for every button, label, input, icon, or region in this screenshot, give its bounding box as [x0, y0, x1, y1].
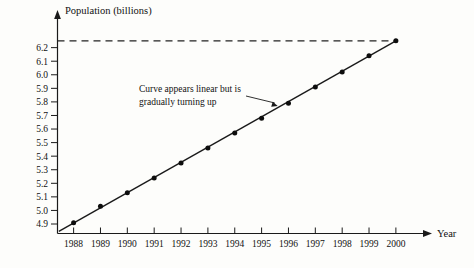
- x-tick-label: 1998: [333, 239, 352, 249]
- data-point: [125, 190, 130, 195]
- y-tick-label: 5.9: [36, 84, 48, 94]
- x-tick-label: 1996: [279, 239, 298, 249]
- y-tick-label: 4.9: [36, 219, 48, 229]
- x-axis-title: Year: [437, 228, 457, 239]
- y-axis-title: Population (billions): [65, 5, 152, 17]
- data-point: [286, 101, 291, 106]
- annotation-line-1: Curve appears linear but is: [139, 84, 241, 94]
- trend-line: [59, 41, 396, 232]
- x-tick-label: 1999: [360, 239, 379, 249]
- y-axis-arrowhead: [54, 10, 61, 19]
- data-point: [393, 38, 398, 43]
- data-point: [313, 84, 318, 89]
- x-tick-label: 1988: [64, 239, 83, 249]
- data-point: [179, 160, 184, 165]
- data-point: [259, 116, 264, 121]
- data-point: [71, 220, 76, 225]
- data-point: [232, 131, 237, 136]
- y-axis: [54, 10, 61, 234]
- y-tick-label: 5.1: [36, 192, 48, 202]
- data-point: [367, 53, 372, 58]
- x-tick-label: 1990: [118, 239, 137, 249]
- x-tick-label: 2000: [386, 239, 405, 249]
- x-tick-label: 1994: [225, 239, 244, 249]
- x-tick-label: 1991: [145, 239, 164, 249]
- y-tick-label: 5.2: [36, 179, 48, 189]
- data-point: [205, 146, 210, 151]
- chart-svg: Population (billions) Year 6.26.16.05.95…: [0, 0, 474, 268]
- annotation-line-2: gradually turning up: [139, 97, 217, 107]
- y-tick-label: 6.2: [36, 43, 48, 53]
- x-axis-arrowhead: [423, 230, 432, 237]
- x-tick-label: 1993: [198, 239, 217, 249]
- y-tick-label: 5.8: [36, 97, 48, 107]
- x-tick-label: 1989: [91, 239, 110, 249]
- x-tick-label: 1992: [172, 239, 191, 249]
- population-chart: Population (billions) Year 6.26.16.05.95…: [0, 0, 474, 268]
- annotation-leader-line: [246, 96, 275, 103]
- x-tick-group: 1988198919901991199219931994199519961997…: [64, 228, 406, 249]
- y-tick-group: 6.26.16.05.95.85.75.65.55.45.35.25.15.04…: [36, 43, 57, 229]
- y-tick-label: 6.1: [36, 57, 48, 67]
- y-tick-label: 5.0: [36, 206, 48, 216]
- x-tick-label: 1995: [252, 239, 271, 249]
- x-tick-label: 1997: [306, 239, 325, 249]
- data-point: [152, 175, 157, 180]
- y-tick-label: 5.4: [36, 152, 48, 162]
- y-tick-label: 5.7: [36, 111, 48, 121]
- y-tick-label: 5.6: [36, 124, 48, 134]
- x-axis: [58, 230, 433, 237]
- y-tick-label: 5.5: [36, 138, 48, 148]
- data-point: [340, 70, 345, 75]
- data-point: [98, 204, 103, 209]
- y-tick-label: 5.3: [36, 165, 48, 175]
- annotation: Curve appears linear but is gradually tu…: [139, 84, 278, 107]
- y-tick-label: 6.0: [36, 70, 48, 80]
